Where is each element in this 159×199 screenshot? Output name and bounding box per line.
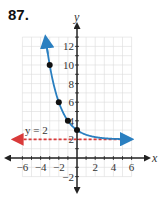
x-tick-label: 6 <box>129 161 135 173</box>
data-point <box>56 99 62 105</box>
y-tick-label: 12 <box>63 40 74 52</box>
x-tick-label: 4 <box>111 161 117 173</box>
data-point <box>47 62 53 68</box>
function-curve <box>46 38 131 139</box>
data-point <box>65 118 71 124</box>
x-tick-label: 2 <box>92 161 98 173</box>
y-tick-label: 8 <box>69 78 75 90</box>
y-tick-label: −2 <box>62 171 74 183</box>
x-tick-label: −4 <box>35 161 47 173</box>
x-axis-label: x <box>151 151 158 165</box>
asymptote-label: y = 2 <box>25 124 48 136</box>
data-point <box>74 127 80 133</box>
curve-arrow-up <box>46 38 48 54</box>
x-tick-label: −6 <box>17 161 29 173</box>
y-axis-label: y <box>73 10 80 24</box>
y-tick-label: 10 <box>63 59 75 71</box>
graph: −6−4−2246−224681012xyy = 2 <box>0 0 159 199</box>
y-tick-label: 6 <box>69 96 75 108</box>
